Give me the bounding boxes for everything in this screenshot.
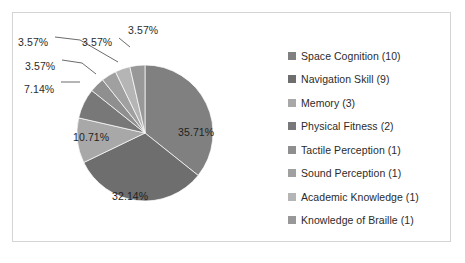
pie-data-label: 3.57%: [128, 24, 158, 36]
legend-color-swatch-icon: [288, 52, 296, 60]
legend-item[interactable]: Memory (3): [288, 91, 448, 115]
legend-item[interactable]: Knowledge of Braille (1): [288, 209, 448, 233]
pie-data-label: 3.57%: [82, 36, 112, 48]
legend-item-label: Tactile Perception (1): [301, 144, 401, 156]
legend-item-label: Memory (3): [301, 97, 355, 109]
pie-data-label: 7.14%: [24, 83, 54, 95]
legend-item[interactable]: Tactile Perception (1): [288, 138, 448, 162]
legend-item[interactable]: Sound Perception (1): [288, 162, 448, 186]
pie-data-label: 3.57%: [18, 36, 48, 48]
legend-item-label: Physical Fitness (2): [301, 120, 394, 132]
legend-color-swatch-icon: [288, 169, 296, 177]
pie-data-label: 35.71%: [178, 126, 214, 138]
legend-color-swatch-icon: [288, 146, 296, 154]
legend-color-swatch-icon: [288, 122, 296, 130]
chart-legend: Space Cognition (10)Navigation Skill (9)…: [288, 44, 448, 232]
pie-data-label: 32.14%: [112, 190, 148, 202]
legend-item[interactable]: Academic Knowledge (1): [288, 185, 448, 209]
legend-item-label: Navigation Skill (9): [301, 73, 390, 85]
pie-data-label: 3.57%: [25, 60, 55, 72]
legend-item-label: Knowledge of Braille (1): [301, 214, 414, 226]
legend-item-label: Sound Perception (1): [301, 167, 401, 179]
leader-line-slice-5: [62, 60, 96, 74]
legend-item-label: Space Cognition (10): [301, 50, 401, 62]
legend-color-swatch-icon: [288, 216, 296, 224]
legend-color-swatch-icon: [288, 193, 296, 201]
legend-item[interactable]: Navigation Skill (9): [288, 68, 448, 92]
legend-color-swatch-icon: [288, 75, 296, 83]
legend-color-swatch-icon: [288, 99, 296, 107]
legend-item-label: Academic Knowledge (1): [301, 191, 419, 203]
legend-item[interactable]: Space Cognition (10): [288, 44, 448, 68]
pie-data-label: 10.71%: [73, 131, 109, 143]
leader-line-slice-7: [119, 38, 130, 47]
legend-item[interactable]: Physical Fitness (2): [288, 115, 448, 139]
